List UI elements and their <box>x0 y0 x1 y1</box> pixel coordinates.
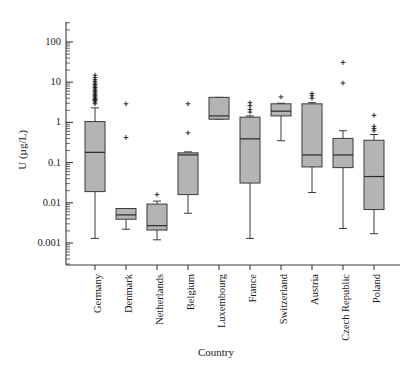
outlier-marker <box>372 113 377 118</box>
x-tick-label: Poland <box>371 273 382 303</box>
box-plot-group <box>178 101 198 213</box>
y-tick-label: 100 <box>45 36 61 47</box>
outlier-marker <box>341 81 346 86</box>
x-tick-label: Czech Republic <box>340 274 351 341</box>
x-tick-label: Austria <box>309 274 320 305</box>
box-plot-group <box>116 101 136 229</box>
outlier-marker <box>279 95 284 100</box>
outlier-marker <box>155 192 160 197</box>
y-tick-label: 0.01 <box>43 197 61 208</box>
y-axis-title: U (µg/L) <box>16 130 29 170</box>
box-iqr <box>302 104 322 167</box>
x-tick-label: Luxembourg <box>216 273 227 328</box>
y-tick-label: 1 <box>56 116 61 127</box>
box-plot-group <box>209 97 229 119</box>
outlier-marker <box>124 101 129 106</box>
outlier-marker <box>186 101 191 106</box>
box-iqr <box>333 138 353 167</box>
box-iqr <box>364 140 384 209</box>
y-tick-label: 0.1 <box>48 157 61 168</box>
outlier-marker <box>341 60 346 65</box>
x-tick-label: France <box>247 274 258 303</box>
box-iqr <box>178 153 198 195</box>
x-tick-label: Germany <box>92 273 103 313</box>
box-plot-group <box>364 113 384 234</box>
box-plot-group <box>147 192 167 240</box>
x-tick-label: Belgium <box>185 274 196 310</box>
x-axis-title: Country <box>198 346 235 358</box>
box-iqr <box>116 209 136 220</box>
outlier-marker <box>310 91 315 96</box>
box-plot-group <box>85 73 105 239</box>
outlier-marker <box>124 135 129 140</box>
box-iqr <box>271 104 291 116</box>
box-plot-group <box>271 95 291 141</box>
plot-canvas: 1001010.10.010.001U (µg/L)GermanyDenmark… <box>0 0 411 375</box>
outlier-marker <box>186 130 191 135</box>
box-iqr <box>85 122 105 192</box>
outlier-marker <box>248 100 253 105</box>
outlier-marker <box>93 73 98 78</box>
box-iqr <box>240 117 260 183</box>
x-tick-label: Switzerland <box>278 273 289 324</box>
box-plot-figure: 1001010.10.010.001U (µg/L)GermanyDenmark… <box>0 0 411 375</box>
x-tick-label: Denmark <box>123 273 134 313</box>
y-tick-label: 0.001 <box>37 237 61 248</box>
x-tick-label: Netherlands <box>154 274 165 325</box>
box-plot-group <box>333 60 353 228</box>
y-tick-label: 10 <box>51 76 62 87</box>
outlier-marker <box>372 124 377 129</box>
box-plot-group <box>302 91 322 192</box>
box-plot-group <box>240 100 260 238</box>
